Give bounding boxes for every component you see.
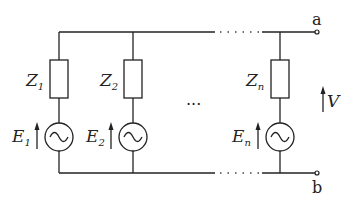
- arrowhead-icon: [256, 122, 261, 130]
- en-sub: n: [244, 137, 250, 148]
- zn-sub: n: [258, 81, 264, 92]
- svg-text:Z1: Z1: [25, 70, 44, 92]
- impedance-zn: [271, 60, 289, 98]
- ellipsis: ···: [186, 95, 201, 114]
- arrowhead-icon: [109, 122, 114, 130]
- arrowhead-icon: [35, 122, 40, 130]
- branch-2: Z2 E2: [85, 32, 147, 173]
- terminal-b-node: [315, 171, 319, 175]
- z2-sub: 2: [111, 81, 118, 92]
- z1-sub: 1: [38, 81, 44, 92]
- svg-text:En: En: [231, 126, 251, 148]
- svg-text:E2: E2: [85, 126, 105, 148]
- voltage-label: V: [327, 91, 341, 111]
- arrowhead-icon: [321, 86, 326, 94]
- e1-sub: 1: [24, 137, 30, 148]
- svg-text:Zn: Zn: [245, 70, 264, 92]
- e2-main: E: [85, 126, 99, 146]
- branch-n: Zn En: [231, 32, 294, 173]
- e1-main: E: [11, 126, 25, 146]
- terminal-b-label: b: [312, 178, 322, 197]
- circuit-diagram: Z1 E1 Z2 E2 ··· Zn En a b V: [0, 0, 348, 207]
- impedance-z2: [124, 60, 142, 98]
- en-main: E: [231, 126, 245, 146]
- svg-text:E1: E1: [11, 126, 31, 148]
- branch-1: Z1 E1: [11, 32, 73, 173]
- impedance-z1: [50, 60, 68, 98]
- svg-text:Z2: Z2: [99, 70, 118, 92]
- terminal-a-label: a: [312, 10, 322, 29]
- e2-sub: 2: [97, 137, 104, 148]
- terminal-a-node: [315, 30, 319, 34]
